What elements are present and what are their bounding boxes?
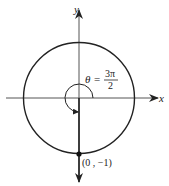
unit-circle-diagram: y x θ = 3π 2 (0 , −1)	[0, 0, 169, 186]
x-axis-label: x	[158, 92, 164, 104]
angle-numerator: 3π	[105, 68, 115, 79]
equals-sign: =	[94, 73, 100, 85]
point-label: (0 , −1)	[82, 157, 112, 169]
theta-symbol: θ	[85, 73, 91, 85]
y-axis-label: y	[73, 3, 79, 15]
angle-denominator: 2	[108, 80, 113, 91]
point-marker	[76, 151, 81, 156]
